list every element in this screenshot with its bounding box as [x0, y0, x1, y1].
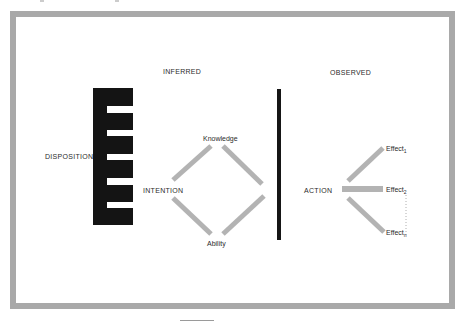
effect-label-n: Effectn [386, 229, 407, 238]
connector-intention-knowledge [173, 146, 211, 180]
connector-intention-ability [173, 198, 211, 234]
effect-label-text: Effect [386, 229, 404, 236]
effect-subscript: 2 [404, 189, 407, 195]
disposition-notch [107, 106, 134, 113]
node-label-action: ACTION [304, 187, 332, 194]
diagram-canvas [0, 0, 465, 324]
disposition-notch [107, 178, 134, 185]
inferred-observed-divider [277, 89, 281, 240]
effect-label-text: Effect [386, 186, 404, 193]
effect-subscript: 1 [404, 148, 407, 154]
disposition-notch [107, 154, 134, 160]
disposition-notch [107, 202, 134, 208]
node-label-knowledge: Knowledge [203, 135, 238, 142]
connector-ability-action [223, 196, 264, 234]
connector-knowledge-action [223, 146, 262, 184]
connector-action-effect-n [348, 198, 384, 232]
node-label-intention: INTENTION [143, 187, 183, 194]
action-connectors [342, 148, 384, 232]
effect-label-2: Effect2 [386, 186, 407, 195]
section-label-observed: OBSERVED [330, 69, 371, 76]
effect-label-text: Effect [386, 145, 404, 152]
node-label-disposition: DISPOSITION [45, 153, 93, 160]
connector-action-effect-1 [348, 148, 383, 181]
disposition-block [93, 88, 134, 225]
effect-subscript: n [404, 232, 407, 238]
section-label-inferred: INFERRED [163, 68, 201, 75]
node-label-ability: Ability [207, 240, 226, 247]
effect-label-1: Effect1 [386, 145, 407, 154]
diamond-connectors [173, 146, 264, 234]
scan-artifact [180, 320, 214, 321]
disposition-notch [107, 130, 134, 136]
